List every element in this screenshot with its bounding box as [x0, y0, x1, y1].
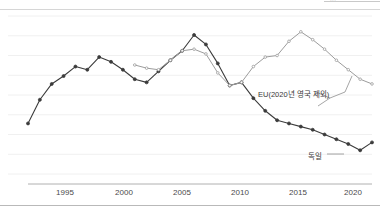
data-point: [276, 119, 279, 122]
series-label-eu: EU(2020년 영국 제외): [258, 88, 329, 99]
data-point: [311, 38, 314, 41]
data-point: [359, 78, 362, 81]
data-point: [323, 133, 326, 136]
data-point: [347, 68, 350, 71]
data-point: [86, 68, 89, 71]
x-tick-label: 2020: [344, 188, 362, 197]
data-point: [204, 43, 207, 46]
x-tick-label: 2005: [173, 188, 191, 197]
data-point: [50, 82, 53, 85]
data-point: [133, 64, 136, 67]
top-clipped-text: ...: [330, 0, 336, 2]
x-tick-label: 2000: [115, 188, 133, 197]
data-point: [121, 68, 124, 71]
data-point: [110, 60, 113, 63]
data-point: [252, 97, 255, 100]
data-point: [288, 40, 291, 43]
data-point: [133, 78, 136, 81]
x-tick-label: 1995: [56, 188, 74, 197]
data-point: [264, 56, 267, 59]
data-point: [311, 128, 314, 131]
top-clipped-header: ...: [0, 0, 380, 7]
x-axis-tick-labels: 199520002005201020152020: [0, 186, 380, 202]
data-point: [193, 48, 196, 51]
data-point: [216, 72, 219, 75]
chart-page: ... 199520002005201020152020 EU(2020년 영국…: [0, 0, 380, 214]
footer-divider: [0, 205, 380, 206]
data-point: [252, 65, 255, 68]
x-tick-label: 2015: [289, 188, 307, 197]
data-point: [74, 65, 77, 68]
series-label-germany: 독일: [308, 150, 322, 161]
data-point: [359, 149, 362, 152]
data-point: [300, 31, 303, 34]
data-point: [228, 84, 231, 87]
data-point: [371, 141, 374, 144]
data-point: [145, 67, 148, 70]
x-tick-label: 2010: [231, 188, 249, 197]
data-point: [145, 81, 148, 84]
data-point: [216, 62, 219, 65]
data-point: [205, 53, 208, 56]
data-point: [287, 122, 290, 125]
data-point: [240, 81, 243, 84]
data-point: [299, 125, 302, 128]
data-point: [335, 59, 338, 62]
data-point: [62, 75, 65, 78]
data-point: [169, 59, 172, 62]
data-point: [27, 122, 30, 125]
data-point: [347, 142, 350, 145]
data-point: [181, 49, 184, 52]
data-point: [264, 109, 267, 112]
data-point: [193, 33, 196, 36]
data-point: [323, 48, 326, 51]
data-point: [38, 98, 41, 101]
data-point: [157, 68, 160, 71]
data-point: [371, 83, 374, 86]
data-point: [276, 54, 279, 57]
data-point: [98, 56, 101, 59]
data-point: [335, 138, 338, 141]
